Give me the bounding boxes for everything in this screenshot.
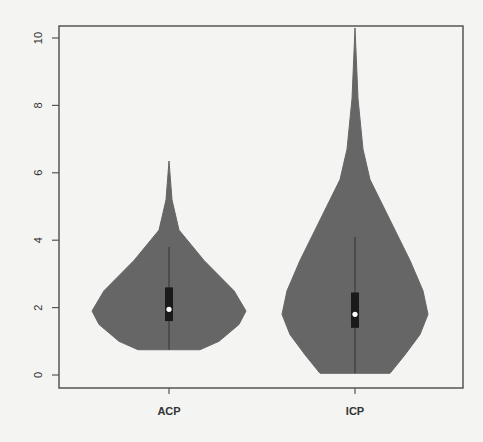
y-tick-label: 0 <box>32 372 44 378</box>
median-dot <box>352 312 357 317</box>
violin-chart: 0246810 ACPICP <box>0 0 483 442</box>
y-tick-label: 6 <box>32 170 44 176</box>
iqr-box <box>351 292 359 327</box>
x-category-label: ACP <box>157 405 180 417</box>
x-axis: ACPICP <box>157 388 364 417</box>
y-axis: 0246810 <box>32 32 59 378</box>
x-category-label: ICP <box>346 405 364 417</box>
violins <box>92 28 428 373</box>
median-dot <box>166 307 171 312</box>
y-tick-label: 10 <box>32 32 44 44</box>
y-tick-label: 8 <box>32 102 44 108</box>
iqr-box <box>165 287 173 321</box>
y-tick-label: 4 <box>32 237 44 243</box>
y-tick-label: 2 <box>32 305 44 311</box>
